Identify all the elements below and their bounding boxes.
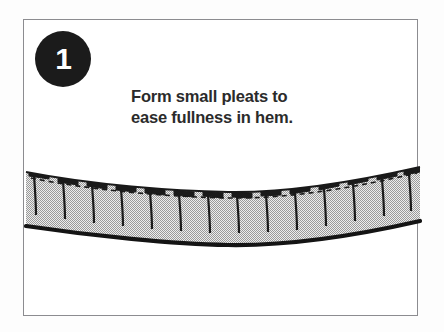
step-number-label: 1 xyxy=(55,44,71,74)
step-number-badge: 1 xyxy=(35,31,91,87)
hem-illustration xyxy=(23,145,423,270)
hem-illustration-svg xyxy=(23,145,423,270)
instruction-figure: 1 Form small pleats to ease fullness in … xyxy=(0,0,444,332)
caption-line-1: Form small pleats to xyxy=(131,86,361,107)
caption-line-2: ease fullness in hem. xyxy=(131,107,361,128)
caption-block: Form small pleats to ease fullness in he… xyxy=(131,86,361,128)
